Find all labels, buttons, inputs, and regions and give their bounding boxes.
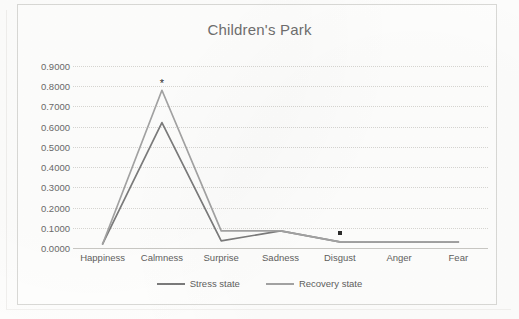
x-axis-tick-label: Happiness — [80, 252, 125, 263]
y-axis-tick-label: 0.0000 — [18, 243, 70, 254]
x-axis-line — [73, 248, 488, 249]
y-axis-tick-label: 0.3000 — [18, 182, 70, 193]
legend-label: Recovery state — [299, 278, 362, 289]
y-axis-tick-label: 0.2000 — [18, 202, 70, 213]
y-axis-tick-label: 0.7000 — [18, 101, 70, 112]
y-axis-tick-label: 0.6000 — [18, 121, 70, 132]
x-axis-tick-label: Calmness — [141, 252, 183, 263]
series-line — [103, 123, 459, 244]
y-axis-tick-label: 0.4000 — [18, 162, 70, 173]
chart-title: Children's Park — [0, 21, 519, 38]
y-axis-tick-label: 0.1000 — [18, 222, 70, 233]
x-axis-tick-label: Fear — [449, 252, 469, 263]
y-axis-tick-label: 0.8000 — [18, 81, 70, 92]
chart-legend: Stress stateRecovery state — [0, 278, 519, 289]
x-axis-tick-label: Surprise — [204, 252, 239, 263]
legend-item: Stress state — [157, 278, 240, 289]
x-axis-tick-label: Disgust — [324, 252, 356, 263]
significance-star-marker: * — [160, 78, 164, 89]
legend-line-swatch — [266, 283, 294, 285]
y-axis-tick-label: 0.9000 — [18, 61, 70, 72]
x-axis-tick-label: Anger — [386, 252, 411, 263]
x-axis-tick-label: Sadness — [262, 252, 299, 263]
significance-square-marker — [338, 231, 342, 235]
legend-item: Recovery state — [266, 278, 362, 289]
y-axis-tick-label: 0.5000 — [18, 141, 70, 152]
legend-line-swatch — [157, 283, 185, 285]
x-axis-labels: HappinessCalmnessSurpriseSadnessDisgustA… — [73, 252, 488, 268]
chart-figure: Children's Park 0.90000.80000.70000.6000… — [0, 0, 519, 319]
line-series-layer — [73, 66, 488, 248]
series-line — [103, 90, 459, 244]
y-axis-labels: 0.90000.80000.70000.60000.50000.40000.30… — [18, 60, 70, 256]
legend-label: Stress state — [190, 278, 240, 289]
